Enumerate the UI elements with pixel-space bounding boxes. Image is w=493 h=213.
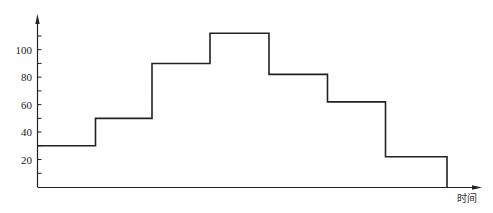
x-axis-arrow-icon	[472, 185, 482, 189]
x-axis: 时间	[38, 185, 483, 204]
y-tick-label: 60	[21, 99, 33, 111]
step-chart: 20 40 60 80 100 时间	[0, 0, 493, 213]
y-tick-label: 80	[21, 71, 33, 83]
y-axis: 20 40 60 80 100	[16, 14, 42, 187]
y-axis-arrow-icon	[35, 14, 39, 24]
step-line	[38, 33, 448, 187]
y-tick-label: 40	[21, 126, 33, 138]
x-axis-label: 时间	[457, 192, 477, 204]
y-axis-tick-labels: 20 40 60 80 100	[16, 44, 33, 166]
y-tick-label: 20	[21, 154, 33, 166]
y-tick-label: 100	[16, 44, 33, 56]
